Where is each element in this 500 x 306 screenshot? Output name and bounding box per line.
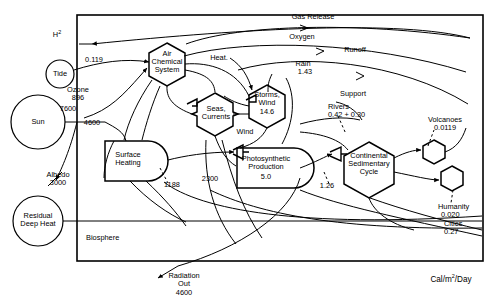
cities-flow-value: 0.27	[444, 228, 488, 236]
sun-source-label: Sun	[24, 118, 52, 126]
volcanoes-flow-value: 0.0119	[418, 124, 472, 132]
sun-absorbed-value: 4600	[79, 119, 105, 127]
surface-heating-label: Surface Heating	[104, 151, 152, 167]
sun-insolation-value: 7600	[55, 105, 81, 113]
storms-wind-label: Storms, Wind	[247, 91, 287, 107]
support-label: Support	[331, 90, 375, 98]
radiation-out-path	[178, 178, 300, 266]
wind-label: Wind	[231, 128, 259, 136]
seas-currents-label: Seas, Currents	[195, 105, 237, 121]
ozone-flow-value: 896	[61, 94, 95, 102]
storms-wind-value: 14.6	[247, 108, 287, 116]
rivers-flow-value: 0.42 + 0.30	[328, 111, 392, 119]
sedimentary-flow-value: 1.26	[313, 182, 341, 190]
energy-flow-diagram: H2 Tide Sun Residual Deep Heat 0.119 Ozo…	[0, 0, 500, 306]
humanity-hexagon	[441, 166, 463, 191]
units-label: Cal/m2/Day	[413, 272, 489, 284]
continental-sedimentary-cycle-label: Continental Sedimentary Cycle	[340, 152, 398, 177]
photosynthetic-production-value: 5.0	[235, 173, 297, 181]
radiation-out-value: 4600	[153, 289, 215, 297]
hydrogen-superscript: 2	[58, 29, 61, 35]
biosphere-boundary-label: Biosphere	[86, 234, 156, 242]
hydrogen-label: H2	[44, 28, 70, 40]
albedo-flow-value: 3000	[38, 179, 78, 187]
heat-path	[230, 58, 252, 90]
tide-source-label: Tide	[46, 70, 74, 78]
volcanoes-hexagon	[423, 140, 445, 164]
residual-deep-heat-label: Residual Deep Heat	[8, 212, 68, 228]
photosynthesis-input-value: 2300	[194, 175, 226, 183]
biosphere-boundary	[77, 15, 483, 261]
rain-flow-value: 1.43	[290, 68, 320, 76]
air-chemical-system-label: Air Chemical System	[146, 50, 188, 75]
gas-release-label: Gas Release	[277, 13, 349, 21]
humanity-flow-value: 0.020	[441, 211, 485, 219]
diagram-canvas	[0, 0, 500, 306]
radiation-out-label: Radiation Out	[153, 272, 215, 288]
runoff-label: Runoff	[334, 46, 376, 54]
oxygen-label: Oxygen	[279, 33, 325, 41]
surface-heat-flow-value: 1188	[157, 181, 187, 189]
tide-flow-value: 0.119	[79, 56, 109, 64]
heat-label: Heat.	[205, 54, 233, 62]
gas-release-path	[186, 27, 470, 44]
photosynthetic-production-label: Photosynthetic Production	[235, 155, 297, 171]
